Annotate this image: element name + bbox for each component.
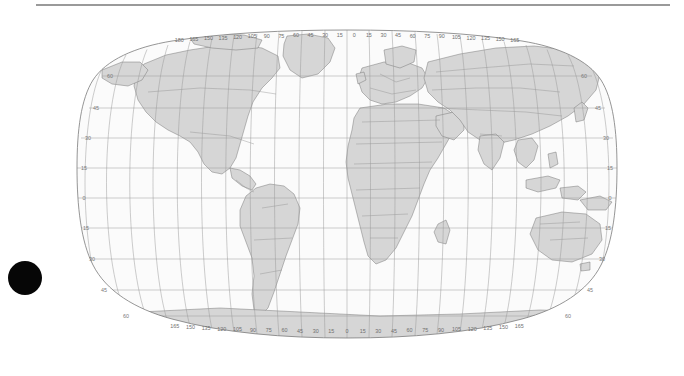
lon-tick-top-165: 165	[189, 36, 198, 42]
lon-tick-bottom-165: 165	[170, 323, 179, 329]
lat-tick-right-60s: 60	[565, 313, 571, 319]
lat-tick-left-0: 0	[83, 195, 86, 201]
lat-tick-right-45s: 45	[587, 287, 593, 293]
lon-tick-bottom-30: 30	[375, 328, 381, 334]
world-map-svg: 1801651501351201059075604530150153045607…	[40, 12, 654, 356]
lon-tick-bottom-120: 120	[468, 326, 477, 332]
top-divider-rule	[36, 4, 670, 6]
lon-tick-top-15: 15	[337, 32, 343, 38]
lat-tick-right-60n: 60	[581, 73, 587, 79]
lon-tick-bottom-135: 135	[202, 325, 211, 331]
lon-tick-bottom-75: 75	[422, 327, 428, 333]
page-root: 1801651501351201059075604530150153045607…	[0, 0, 684, 376]
lon-tick-top-90: 90	[439, 33, 445, 39]
lon-tick-top-60: 60	[410, 33, 416, 39]
lat-tick-left-60s: 60	[123, 313, 129, 319]
lon-tick-top-105: 105	[452, 34, 461, 40]
lon-tick-top-150: 150	[496, 36, 505, 42]
lon-tick-bottom-105: 105	[452, 326, 461, 332]
lon-tick-bottom-150: 150	[186, 324, 195, 330]
lon-tick-top-105: 105	[248, 33, 257, 39]
lat-tick-left-30n: 30	[85, 135, 91, 141]
lon-tick-bottom-75: 75	[266, 327, 272, 333]
lon-tick-top-150: 150	[204, 35, 213, 41]
lon-tick-bottom-60: 60	[281, 327, 287, 333]
lon-tick-bottom-0: 0	[346, 328, 349, 334]
lat-tick-right-30n: 30	[603, 135, 609, 141]
lon-tick-bottom-45: 45	[297, 328, 303, 334]
lon-tick-top-30: 30	[322, 32, 328, 38]
land-new-zealand	[624, 246, 636, 264]
lat-tick-right-15s: 15	[605, 225, 611, 231]
lat-tick-right-0: 0	[609, 195, 612, 201]
lon-tick-bottom-90: 90	[250, 327, 256, 333]
lon-tick-bottom-60: 60	[407, 327, 413, 333]
lon-tick-top-0: 0	[353, 32, 356, 38]
lon-tick-bottom-150: 150	[499, 324, 508, 330]
lon-tick-bottom-165: 165	[515, 323, 524, 329]
lon-tick-top-135: 135	[481, 35, 490, 41]
lon-tick-top-135: 135	[219, 35, 228, 41]
lon-tick-top-120: 120	[233, 34, 242, 40]
lat-tick-left-15n: 15	[81, 165, 87, 171]
lon-tick-bottom-105: 105	[233, 326, 242, 332]
lat-tick-right-45n: 45	[595, 105, 601, 111]
lon-tick-top-45: 45	[308, 32, 314, 38]
lon-tick-top-165: 165	[510, 37, 519, 43]
lat-tick-left-45s: 45	[101, 287, 107, 293]
lon-tick-bottom-120: 120	[217, 326, 226, 332]
lon-tick-bottom-30: 30	[313, 328, 319, 334]
lon-tick-bottom-15: 15	[360, 328, 366, 334]
black-dot-marker	[8, 261, 42, 295]
lon-tick-top-90: 90	[264, 33, 270, 39]
lon-tick-bottom-15: 15	[328, 328, 334, 334]
lat-tick-right-30s: 30	[599, 256, 605, 262]
lon-tick-top-30: 30	[380, 32, 386, 38]
lat-tick-left-30s: 30	[89, 256, 95, 262]
lon-tick-top-15: 15	[366, 32, 372, 38]
lon-tick-bottom-90: 90	[438, 327, 444, 333]
lon-tick-bottom-45: 45	[391, 328, 397, 334]
lat-tick-left-15s: 15	[83, 225, 89, 231]
lon-tick-top-120: 120	[466, 35, 475, 41]
lon-tick-top-75: 75	[278, 33, 284, 39]
lon-tick-top-45: 45	[395, 32, 401, 38]
lon-tick-bottom-135: 135	[483, 325, 492, 331]
lon-tick-top-180: 180	[175, 37, 184, 43]
lon-tick-top-60: 60	[293, 32, 299, 38]
lat-tick-left-60n: 60	[107, 73, 113, 79]
world-map-figure: 1801651501351201059075604530150153045607…	[40, 12, 654, 356]
lat-tick-left-45n: 45	[93, 105, 99, 111]
lat-tick-right-15n: 15	[607, 165, 613, 171]
lon-tick-top-75: 75	[424, 33, 430, 39]
